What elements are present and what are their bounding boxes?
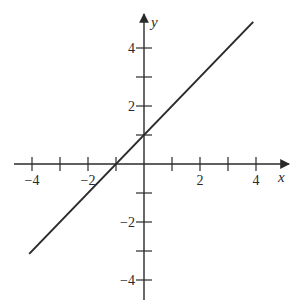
y-tick-label: −2 (120, 215, 135, 230)
x-tick-label: −2 (81, 173, 96, 188)
line-graph: −4−22442−2−4 x y (0, 0, 298, 303)
x-tick-label: 4 (253, 173, 260, 188)
x-axis-label: x (277, 169, 285, 185)
x-tick-label: −4 (25, 173, 40, 188)
line-y-equals-x-plus-1 (29, 22, 253, 254)
y-tick-label: 2 (128, 99, 135, 114)
y-axis-label: y (149, 14, 158, 30)
x-tick-label: 2 (197, 173, 204, 188)
y-tick-label: 4 (128, 41, 135, 56)
axes (14, 14, 289, 300)
data-series (29, 22, 253, 254)
y-tick-label: −4 (120, 273, 135, 288)
